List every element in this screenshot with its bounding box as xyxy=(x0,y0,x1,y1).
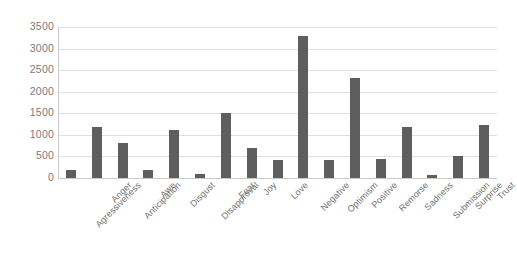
y-axis-tick-labels: 3500300025002000150010005000 xyxy=(0,0,54,253)
bar xyxy=(402,127,412,178)
bar xyxy=(453,156,463,178)
bar xyxy=(427,175,437,178)
bar xyxy=(195,174,205,178)
bar xyxy=(143,170,153,178)
x-tick-label: Disgust xyxy=(188,180,217,209)
bar xyxy=(350,78,360,178)
y-tick-label: 3500 xyxy=(0,21,54,32)
bar xyxy=(118,143,128,178)
bar xyxy=(221,113,231,178)
y-tick-label: 500 xyxy=(0,150,54,161)
bar xyxy=(273,160,283,178)
y-tick-label: 1000 xyxy=(0,129,54,140)
bar xyxy=(479,125,489,178)
bar xyxy=(324,160,334,178)
y-tick-label: 2000 xyxy=(0,86,54,97)
bar xyxy=(92,127,102,178)
bar xyxy=(376,159,386,178)
bar xyxy=(298,36,308,178)
x-tick-label: Love xyxy=(288,180,309,201)
y-tick-label: 0 xyxy=(0,172,54,183)
x-tick-label: Joy xyxy=(261,180,278,197)
y-tick-label: 1500 xyxy=(0,107,54,118)
bar xyxy=(247,148,257,178)
y-tick-label: 3000 xyxy=(0,43,54,54)
y-tick-label: 2500 xyxy=(0,64,54,75)
x-axis-tick-labels: AgressivenessAngerAnticipationAweDisgust… xyxy=(58,180,511,253)
bar xyxy=(169,130,179,178)
bar xyxy=(66,170,76,178)
